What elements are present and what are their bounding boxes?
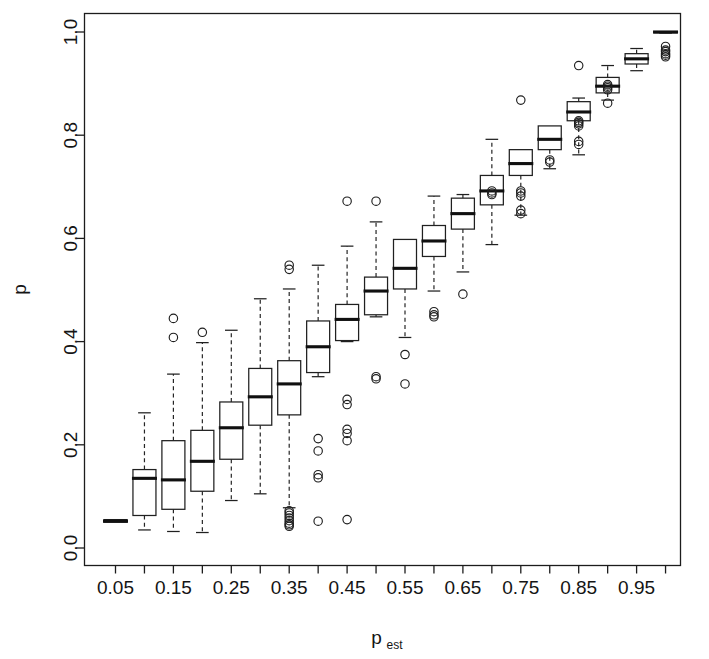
outlier-point xyxy=(343,515,351,523)
x-tick-label: 0.55 xyxy=(387,577,424,598)
outlier-point xyxy=(343,197,351,205)
x-axis: 0.050.150.250.350.450.550.650.750.850.95 xyxy=(97,566,666,598)
box-iqr xyxy=(220,402,243,459)
outlier-point xyxy=(314,447,322,455)
boxplot-box xyxy=(306,265,331,525)
outlier-point xyxy=(372,372,380,380)
x-tick-label: 0.05 xyxy=(97,577,134,598)
boxplot-figure: 0.00.20.40.60.81.0 0.050.150.250.350.450… xyxy=(0,0,709,659)
boxplot-box xyxy=(132,413,157,530)
y-tick-label: 0.6 xyxy=(60,225,81,251)
x-tick-label: 0.85 xyxy=(560,577,597,598)
boxplot-box xyxy=(566,61,591,154)
y-tick-label: 0.4 xyxy=(60,328,81,355)
box-iqr xyxy=(336,304,359,340)
boxplot-box xyxy=(335,197,360,524)
boxplot-box xyxy=(277,261,302,530)
boxplot-box xyxy=(479,139,504,244)
y-axis: 0.00.20.40.60.81.0 xyxy=(60,19,85,561)
outlier-point xyxy=(459,290,467,298)
outlier-point xyxy=(430,313,438,321)
x-tick-label: 0.35 xyxy=(271,577,308,598)
outlier-point xyxy=(575,61,583,69)
outlier-point xyxy=(169,314,177,322)
boxplot-box xyxy=(393,239,418,388)
boxplot-box xyxy=(161,314,186,531)
y-axis-title: p xyxy=(9,284,30,295)
outlier-point xyxy=(169,333,177,341)
outlier-point xyxy=(314,517,322,525)
box-series xyxy=(103,32,678,533)
box-iqr xyxy=(278,361,301,415)
boxplot-box xyxy=(103,520,128,523)
boxplot-canvas: 0.00.20.40.60.81.0 0.050.150.250.350.450… xyxy=(0,0,709,659)
outlier-point xyxy=(372,197,380,205)
boxplot-box xyxy=(537,126,562,169)
box-iqr xyxy=(365,277,388,315)
boxplot-box xyxy=(364,197,389,383)
outlier-point xyxy=(401,380,409,388)
boxplot-box xyxy=(508,96,533,218)
outlier-point xyxy=(343,400,351,408)
x-axis-title: p xyxy=(371,627,382,648)
boxplot-box xyxy=(421,196,446,321)
boxplot-box xyxy=(653,32,678,61)
x-axis-title-subscript: est xyxy=(387,638,404,652)
outlier-point xyxy=(372,375,380,383)
outlier-point xyxy=(401,350,409,358)
x-tick-label: 0.65 xyxy=(444,577,481,598)
outlier-point xyxy=(314,434,322,442)
x-tick-label: 0.95 xyxy=(618,577,655,598)
outlier-point xyxy=(198,328,206,336)
boxplot-box xyxy=(624,49,649,71)
y-tick-label: 1.0 xyxy=(60,19,81,45)
box-iqr xyxy=(162,441,185,510)
outlier-point xyxy=(517,96,525,104)
box-iqr xyxy=(394,239,417,289)
x-tick-label: 0.15 xyxy=(155,577,192,598)
box-iqr xyxy=(133,470,156,516)
boxplot-box xyxy=(190,328,215,532)
y-tick-label: 0.2 xyxy=(60,432,81,458)
boxplot-box xyxy=(595,66,620,108)
boxplot-box xyxy=(248,299,273,494)
x-tick-label: 0.25 xyxy=(213,577,250,598)
y-tick-label: 0.8 xyxy=(60,122,81,148)
x-tick-label: 0.45 xyxy=(329,577,366,598)
x-tick-label: 0.75 xyxy=(502,577,539,598)
boxplot-box xyxy=(219,330,244,500)
y-tick-label: 0.0 xyxy=(60,535,81,561)
boxplot-box xyxy=(450,195,475,299)
